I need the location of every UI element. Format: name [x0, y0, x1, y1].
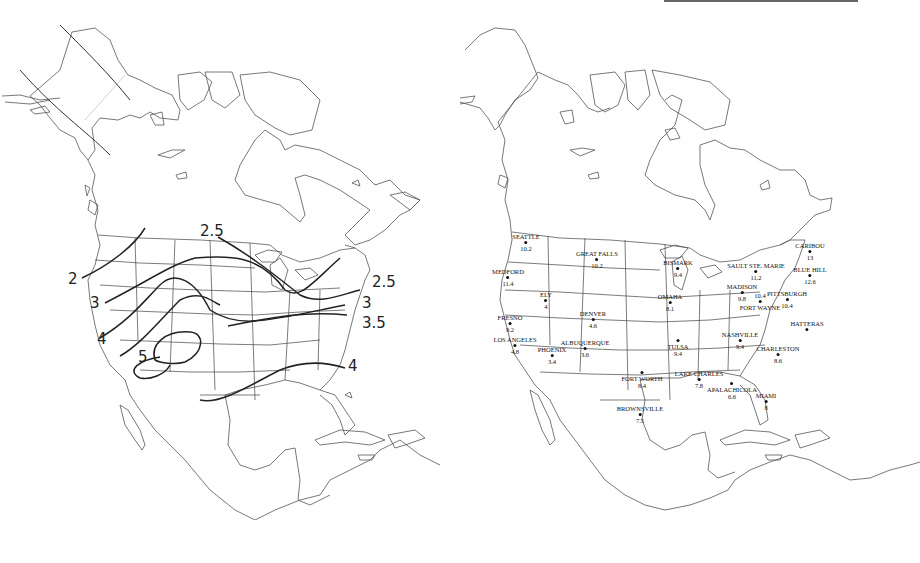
city-marker-charleston: CHARLESTON8.6 [757, 345, 800, 364]
city-marker-seattle: SEATTLE10.2 [512, 233, 539, 252]
isoline-label: 5 [138, 348, 148, 366]
city-marker-tulsa: TULSA9.4 [668, 338, 689, 357]
city-marker-hatteras: HATTERAS [790, 320, 823, 332]
isoline-map-panel: 2 2.5 2.5 3 3 3.5 4 4 5 [0, 0, 460, 520]
isoline-label: 4 [348, 357, 358, 375]
isolines-layer [0, 0, 460, 520]
station-map-panel: SEATTLE10.2 GREAT FALLS10.2 BISMARK9.4 S… [460, 0, 920, 520]
city-marker-pittsburgh: PITTSBURGH10.4 [767, 290, 807, 309]
caption-right [540, 514, 880, 524]
city-marker-fort-worth: FORT WORTH8.4 [621, 370, 662, 389]
city-marker-medford: MEDFORD11.4 [492, 268, 524, 287]
city-marker-miami: MIAMI8 [756, 392, 777, 411]
city-marker-great-falls: GREAT FALLS10.2 [576, 250, 618, 269]
caption-left [20, 514, 180, 524]
city-marker-bismark: BISMARK9.4 [663, 259, 693, 278]
city-marker-brownsville: BROWNSVILLE7.5 [617, 405, 664, 424]
city-marker-albuquerque: ALBUQUERQUE3.6 [561, 339, 610, 358]
city-marker-caribou: CARIBOU13 [795, 242, 824, 261]
city-marker-fresno: FRESNO9.2 [498, 314, 523, 333]
city-marker-omaha: OMAHA8.1 [658, 293, 683, 312]
isoline-label: 2.5 [200, 222, 224, 240]
city-marker-nashville: NASHVILLE9.4 [722, 331, 758, 350]
isoline-label: 3 [362, 294, 372, 312]
isoline-label: 3.5 [362, 314, 386, 332]
isoline-label: 4 [97, 330, 107, 348]
city-marker-apalachicola: APALACHICOLA6.6 [707, 381, 757, 400]
city-marker-ely: ELY4 [540, 291, 552, 310]
city-marker-sault-ste-marie: SAULT STE. MARIE11.2 [727, 262, 785, 281]
isoline-label: 2 [68, 270, 78, 288]
city-marker-denver: DENVER4.6 [580, 310, 606, 329]
isoline-label: 3 [90, 294, 100, 312]
city-marker-blue-hill: BLUE HILL12.6 [793, 266, 826, 285]
isoline-label: 2.5 [372, 273, 396, 291]
city-marker-los-angeles: LOS ANGELES4.8 [493, 336, 536, 355]
